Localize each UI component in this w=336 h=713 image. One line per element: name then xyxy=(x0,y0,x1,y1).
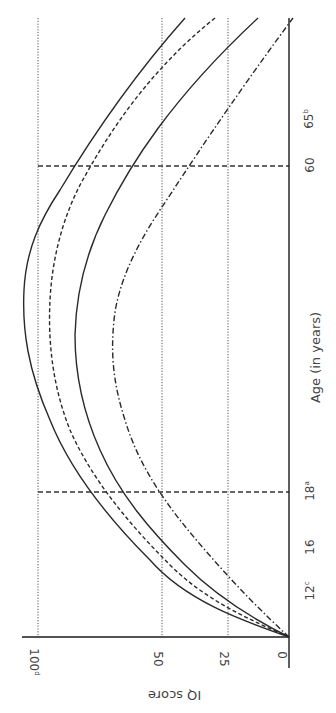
curve-4-dash-dot xyxy=(113,18,293,637)
iq-tick-100: 100d xyxy=(27,648,41,675)
iq-tick-25: 25 xyxy=(217,651,231,666)
age-tick-18-value: 18 xyxy=(303,486,317,501)
age-axis-title-text: Age (in years) xyxy=(308,312,323,403)
age-tick-16: 16 xyxy=(303,539,317,554)
age-tick-12-value: 12 xyxy=(303,585,317,600)
iq-tick-50: 50 xyxy=(151,651,165,666)
iq-tick-0-value: 0 xyxy=(275,651,289,659)
age-tick-12-note: c xyxy=(303,581,311,585)
curves xyxy=(24,18,293,637)
age-tick-60-value: 60 xyxy=(303,157,317,172)
iq-axis-title: IQ score xyxy=(148,688,201,703)
axes xyxy=(22,18,289,668)
age-tick-16-value: 16 xyxy=(303,539,317,554)
age-tick-65: 65b xyxy=(302,109,316,129)
iq-tick-100-value: 100 xyxy=(27,648,41,671)
age-tick-65-note: b xyxy=(302,109,310,113)
iq-tick-25-value: 25 xyxy=(217,651,231,666)
curve-3-solid-inner xyxy=(75,18,289,637)
age-tick-18: 18a xyxy=(303,481,317,501)
iq-tick-0: 0 xyxy=(275,651,289,659)
iq-age-chart xyxy=(0,0,336,713)
age-tick-18-note: a xyxy=(303,481,311,485)
age-tick-65-value: 65 xyxy=(302,114,316,129)
iq-axis-title-text: IQ score xyxy=(148,688,201,703)
age-tick-60: 60 xyxy=(303,157,317,172)
curve-2-dashed xyxy=(50,18,289,637)
iq-tick-100-note: d xyxy=(33,671,41,675)
age-tick-12: 12c xyxy=(303,581,317,600)
iq-tick-50-value: 50 xyxy=(151,651,165,666)
age-axis-title: Age (in years) xyxy=(308,312,323,403)
curve-1-solid-outer xyxy=(24,18,289,637)
